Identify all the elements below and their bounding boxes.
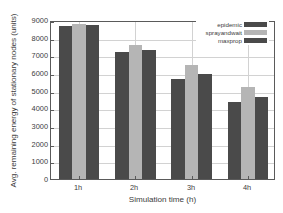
- legend-label: epidemic: [217, 21, 242, 28]
- x-tick-label-2h: 2h: [114, 183, 154, 192]
- bar-chart-figure: Avg. remaining energy of stationary node…: [0, 0, 283, 213]
- y-tick-mark: [51, 93, 54, 94]
- y-tick-mark: [51, 40, 54, 41]
- bar-group: [59, 22, 100, 179]
- bar-maxprop-1h: [86, 25, 100, 179]
- bar-epidemic-4h: [228, 102, 242, 179]
- chart-legend: epidemicsprayandwaitmaxprop: [196, 20, 269, 45]
- x-tick-mark: [79, 176, 80, 179]
- y-tick-mark: [51, 57, 54, 58]
- bar-group: [115, 22, 156, 179]
- legend-item-maxprop: maxprop: [198, 37, 267, 44]
- x-tick-label-4h: 4h: [227, 183, 267, 192]
- bar-sprayandwait-2h: [129, 45, 143, 179]
- x-tick-mark: [135, 176, 136, 179]
- x-axis-tick-labels: 1h2h3h4h: [50, 183, 275, 193]
- bar-group: [228, 22, 269, 179]
- legend-swatch: [244, 38, 267, 43]
- y-tick-mark: [51, 128, 54, 129]
- y-tick-mark: [51, 110, 54, 111]
- y-tick-label: 2000: [18, 141, 48, 149]
- legend-label: sprayandwait: [206, 29, 242, 36]
- bar-maxprop-3h: [198, 74, 212, 179]
- y-tick-label: 6000: [18, 70, 48, 78]
- y-tick-label: 5000: [18, 88, 48, 96]
- legend-item-epidemic: epidemic: [198, 21, 267, 28]
- bar-group: [171, 22, 212, 179]
- y-tick-label: 9000: [18, 17, 48, 25]
- legend-swatch: [244, 30, 267, 35]
- bar-epidemic-3h: [171, 79, 185, 179]
- y-tick-mark: [51, 75, 54, 76]
- bar-maxprop-4h: [255, 97, 269, 179]
- bar-sprayandwait-1h: [72, 24, 86, 179]
- legend-swatch: [244, 22, 267, 27]
- x-tick-mark: [248, 176, 249, 179]
- y-tick-mark: [51, 22, 54, 23]
- y-tick-label: 3000: [18, 123, 48, 131]
- y-tick-label: 0: [18, 176, 48, 184]
- x-tick-mark: [192, 176, 193, 179]
- legend-label: maxprop: [218, 37, 242, 44]
- y-axis-tick-labels: 0100020003000400050006000700080009000: [18, 21, 48, 180]
- y-tick-label: 7000: [18, 52, 48, 60]
- y-tick-mark: [51, 146, 54, 147]
- y-tick-label: 1000: [18, 158, 48, 166]
- x-tick-label-3h: 3h: [171, 183, 211, 192]
- y-tick-label: 4000: [18, 105, 48, 113]
- y-tick-label: 8000: [18, 35, 48, 43]
- x-tick-label-1h: 1h: [58, 183, 98, 192]
- bar-sprayandwait-3h: [185, 65, 199, 179]
- bar-sprayandwait-4h: [241, 87, 255, 179]
- bar-maxprop-2h: [142, 50, 156, 179]
- y-tick-mark: [51, 163, 54, 164]
- bar-epidemic-2h: [115, 52, 129, 179]
- x-axis-title: Simulation time (h): [50, 195, 275, 205]
- legend-item-sprayandwait: sprayandwait: [198, 29, 267, 36]
- bar-epidemic-1h: [59, 26, 73, 179]
